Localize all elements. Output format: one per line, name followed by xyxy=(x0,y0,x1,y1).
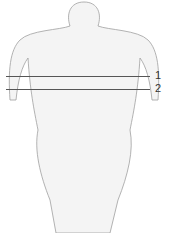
reference-line-1 xyxy=(6,76,150,77)
reference-line-2 xyxy=(6,89,150,90)
reference-label-2: 2 xyxy=(155,83,161,94)
reference-label-1: 1 xyxy=(155,70,161,81)
anatomical-figure-outline xyxy=(0,0,170,233)
